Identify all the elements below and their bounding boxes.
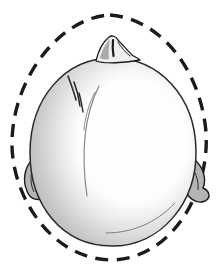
figure-canvas [0, 0, 219, 279]
head-vertex-illustration [0, 0, 219, 279]
nose-median-line [113, 40, 114, 56]
head-outline [30, 58, 196, 246]
